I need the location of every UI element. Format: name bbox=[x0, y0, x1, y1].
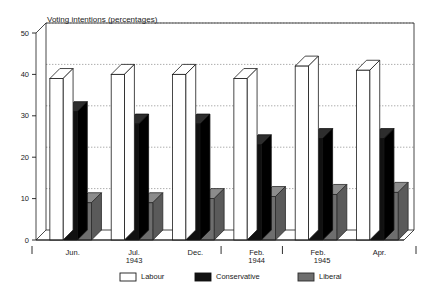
bar-chart: Voting intentions (percentages) 01020304… bbox=[0, 0, 427, 290]
y-axis-tick-label: 0 bbox=[25, 236, 29, 245]
bar-labour-4 bbox=[234, 69, 257, 240]
y-axis-tick-label: 20 bbox=[21, 153, 29, 162]
y-axis-tick-label: 10 bbox=[21, 194, 29, 203]
legend-swatch-labour bbox=[120, 273, 136, 281]
bar-side-face bbox=[323, 129, 333, 240]
legend-swatch-conservative bbox=[195, 273, 211, 281]
bar-side-face bbox=[139, 114, 149, 240]
bar-front-face bbox=[50, 79, 63, 240]
frame-line bbox=[36, 23, 46, 33]
bar-front-face bbox=[295, 66, 308, 240]
x-axis-year-label: 1945 bbox=[314, 256, 331, 265]
frame-line bbox=[36, 230, 46, 240]
legend-label-labour: Labour bbox=[141, 272, 165, 281]
bar-side-face bbox=[63, 69, 73, 240]
x-axis-category-label: Dec. bbox=[188, 248, 203, 257]
bar-side-face bbox=[370, 60, 380, 240]
bar-front-face bbox=[173, 74, 186, 240]
x-axis-year-label: 1944 bbox=[248, 256, 265, 265]
x-axis-year-label: 1943 bbox=[126, 256, 143, 265]
bar-side-face bbox=[337, 184, 347, 240]
bar-side-face bbox=[275, 187, 285, 240]
x-axis-category-label: Apr. bbox=[373, 248, 386, 257]
chart-container: Voting intentions (percentages) 01020304… bbox=[0, 0, 427, 290]
bar-side-face bbox=[186, 64, 196, 240]
bar-series-group bbox=[50, 56, 408, 240]
bar-side-face bbox=[308, 56, 318, 240]
bar-front-face bbox=[111, 74, 124, 240]
y-axis-tick-label: 50 bbox=[21, 29, 29, 38]
bar-labour-3 bbox=[173, 64, 196, 240]
bar-side-face bbox=[384, 129, 394, 240]
bar-side-face bbox=[247, 69, 257, 240]
legend-label-conservative: Conservative bbox=[216, 272, 260, 281]
bar-front-face bbox=[234, 79, 247, 240]
x-axis-tick-labels: Jun.Jul.1943Dec.Feb.1944Feb.Apr.1945 bbox=[32, 246, 416, 265]
bar-labour-1 bbox=[50, 69, 73, 240]
y-axis-tick-label: 30 bbox=[21, 111, 29, 120]
bar-labour-5 bbox=[295, 56, 318, 240]
legend-swatch-liberal bbox=[298, 273, 314, 281]
y-axis: 01020304050 bbox=[21, 29, 36, 245]
bar-side-face bbox=[77, 102, 87, 240]
y-axis-tick-label: 40 bbox=[21, 70, 29, 79]
bar-side-face bbox=[398, 182, 408, 240]
x-axis-category-label: Jun. bbox=[66, 248, 80, 257]
bar-side-face bbox=[124, 64, 134, 240]
bar-side-face bbox=[261, 135, 271, 240]
chart-legend: LabourConservativeLiberal bbox=[120, 272, 342, 281]
bar-labour-6 bbox=[357, 60, 380, 240]
bar-labour-2 bbox=[111, 64, 134, 240]
legend-label-liberal: Liberal bbox=[319, 272, 342, 281]
bar-front-face bbox=[357, 70, 370, 240]
bar-side-face bbox=[200, 114, 210, 240]
